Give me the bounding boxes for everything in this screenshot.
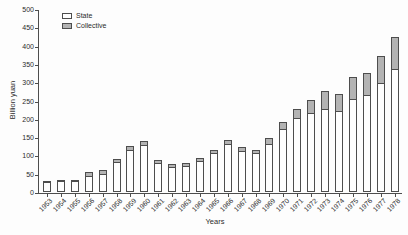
x-tick-label-1963: 1963 [177,197,194,214]
bar-1955 [71,180,79,192]
x-tick-label-1968: 1968 [246,197,263,214]
y-tick [35,28,38,29]
y-tick [35,156,38,157]
bar-1977 [377,56,385,192]
bar-1956-state-segment [85,176,93,192]
bar-1970 [279,122,287,192]
y-tick-label: 200 [12,116,34,124]
x-tick [172,194,173,197]
x-axis-title: Years [130,217,300,226]
bar-1974-state-segment [335,111,343,192]
bar-1965-state-segment [210,153,218,192]
legend: State Collective [62,12,106,29]
bar-1969 [265,138,273,192]
bar-1964 [196,158,204,192]
bar-1953 [43,181,51,192]
x-tick-label-1960: 1960 [135,197,152,214]
bar-1975 [349,77,357,192]
x-tick-label-1954: 1954 [52,197,69,214]
y-tick [35,120,38,121]
bar-1962-state-segment [168,167,176,192]
y-tick [35,47,38,48]
state-legend-label: State [76,12,92,19]
bar-1972-collective-segment [307,100,315,114]
collective-legend-swatch [62,23,72,29]
y-tick-label: 500 [12,6,34,14]
bar-1961-state-segment [154,163,162,192]
y-tick-label: 400 [12,43,34,51]
collective-legend-label: Collective [76,22,106,29]
bar-1959-state-segment [126,150,134,192]
y-tick-label: 350 [12,61,34,69]
bar-1968-state-segment [252,153,260,192]
x-tick-label-1962: 1962 [163,197,180,214]
bar-1973 [321,91,329,192]
bar-1959 [126,146,134,192]
bar-1968 [252,150,260,192]
bar-1977-collective-segment [377,56,385,84]
y-tick-label: 450 [12,24,34,32]
bar-1974-collective-segment [335,94,343,112]
x-tick-label-1964: 1964 [191,197,208,214]
bar-1978-state-segment [391,69,399,192]
x-tick-label-1961: 1961 [149,197,166,214]
bar-1960 [140,141,148,192]
x-tick-label-1975: 1975 [344,197,361,214]
bar-1954-state-segment [57,181,65,192]
y-tick [35,83,38,84]
x-tick [297,194,298,197]
x-tick [158,194,159,197]
bar-1954 [57,180,65,192]
x-tick-label-1965: 1965 [205,197,222,214]
y-tick [35,138,38,139]
y-tick-label: 50 [12,171,34,179]
bar-1966-state-segment [224,144,232,192]
bar-1973-collective-segment [321,91,329,110]
x-tick-label-1959: 1959 [121,197,138,214]
x-tick-label-1978: 1978 [385,197,402,214]
x-axis-line [38,193,402,194]
bar-1965 [210,150,218,192]
y-axis-line [38,10,39,194]
bar-1975-collective-segment [349,77,357,100]
x-tick-label-1970: 1970 [274,197,291,214]
bar-1966 [224,140,232,192]
y-tick [35,102,38,103]
y-tick [35,175,38,176]
x-tick-label-1967: 1967 [233,197,250,214]
bar-1962 [168,164,176,192]
x-tick-label-1956: 1956 [80,197,97,214]
bar-1967 [238,147,246,192]
bar-1957-state-segment [99,174,107,192]
bar-1957 [99,170,107,192]
x-tick-label-1974: 1974 [330,197,347,214]
x-tick-label-1955: 1955 [66,197,83,214]
y-tick [35,10,38,11]
y-tick-label: 150 [12,134,34,142]
bar-1972-state-segment [307,113,315,192]
bar-1961 [154,160,162,192]
bar-1969-state-segment [265,144,273,192]
bar-1974 [335,94,343,192]
bar-1976-state-segment [363,95,371,192]
bar-1958 [113,159,121,192]
y-tick-label: 0 [12,189,34,197]
bar-1963 [182,163,190,192]
bar-1955-state-segment [71,181,79,192]
x-tick [311,194,312,197]
bar-1973-state-segment [321,109,329,192]
legend-item-state: State [62,12,106,19]
x-tick-label-1957: 1957 [94,197,111,214]
bar-1960-state-segment [140,145,148,192]
bar-1971-state-segment [293,118,301,192]
bar-1958-state-segment [113,162,121,192]
stacked-bar-chart-figure: Billion yuan State Collective 0501001502… [0,0,408,235]
state-legend-swatch [62,13,72,19]
bar-1963-state-segment [182,166,190,192]
x-tick-label-1953: 1953 [38,197,55,214]
bar-1964-state-segment [196,161,204,192]
bar-1967-state-segment [238,151,246,192]
x-tick-label-1969: 1969 [260,197,277,214]
bar-1972 [307,100,315,192]
bar-1978 [391,37,399,192]
